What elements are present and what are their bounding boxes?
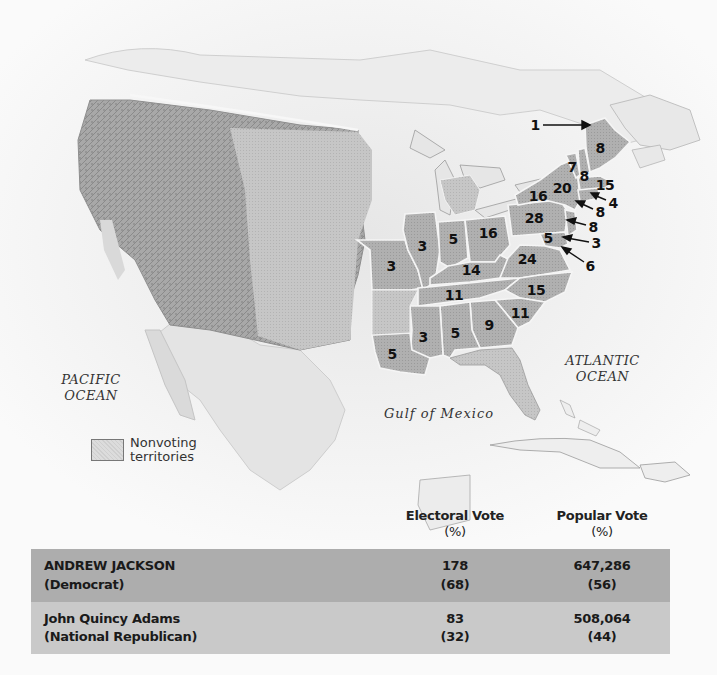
- gulf-of-mexico-label: Gulf of Mexico: [374, 406, 504, 422]
- electoral-vote-header: Electoral Vote (%): [385, 508, 525, 541]
- candidate-cell: ANDREW JACKSON (Democrat): [44, 557, 424, 593]
- table-row-adams: John Quincy Adams (National Republican) …: [31, 602, 670, 654]
- ev-label-new-hampshire: 8: [579, 169, 588, 183]
- ev-label-missouri: 3: [386, 259, 395, 273]
- ev-label-alabama: 5: [450, 326, 459, 340]
- pacific-ocean-label: PACIFIC OCEAN: [56, 372, 126, 405]
- ev-label-kentucky: 14: [462, 263, 480, 277]
- ev-label-georgia: 9: [484, 318, 493, 332]
- ev-label-north-carolina: 15: [527, 283, 545, 297]
- ev-label-maine: 8: [595, 141, 604, 155]
- electoral-vote-cell: 83 (32): [441, 610, 470, 646]
- election-map: 1 8 7 8 15 20 16 4 8 8 28 16 3 5 6 24 5 …: [0, 0, 717, 540]
- map-legend: Nonvoting territories: [91, 436, 197, 465]
- ev-label-new-jersey: 8: [588, 220, 597, 234]
- ev-label-mississippi: 3: [418, 330, 427, 344]
- ev-label-massachusetts: 15: [596, 178, 614, 192]
- nonvoting-territories-swatch: [91, 439, 124, 461]
- ev-label-virginia: 24: [518, 252, 536, 266]
- ev-label-maine-north: 1: [530, 118, 539, 132]
- ev-label-maryland-east: 6: [585, 259, 594, 273]
- ev-label-tennessee: 11: [445, 288, 463, 302]
- atlantic-ocean-label: ATLANTIC OCEAN: [560, 353, 645, 386]
- electoral-vote-cell: 178 (68): [441, 557, 470, 593]
- candidate-party: (Democrat): [44, 576, 424, 594]
- ev-label-connecticut: 8: [595, 205, 604, 219]
- popular-vote-cell: 647,286 (56): [573, 557, 630, 593]
- candidate-cell: John Quincy Adams (National Republican): [44, 610, 424, 646]
- ev-label-vermont: 7: [567, 160, 576, 174]
- ev-label-indiana: 5: [448, 232, 457, 246]
- ev-label-delaware: 3: [591, 236, 600, 250]
- candidate-name: John Quincy Adams: [44, 610, 424, 628]
- results-table: ANDREW JACKSON (Democrat) 178 (68) 647,2…: [31, 549, 670, 654]
- popular-vote-header: Popular Vote (%): [532, 508, 672, 541]
- ev-label-new-york: 20: [553, 181, 571, 195]
- candidate-name: ANDREW JACKSON: [44, 557, 424, 575]
- ev-label-maryland: 5: [543, 231, 552, 245]
- ev-label-south-carolina: 11: [511, 306, 529, 320]
- candidate-party: (National Republican): [44, 628, 424, 646]
- ev-label-rhode-island: 4: [608, 196, 617, 210]
- table-row-jackson: ANDREW JACKSON (Democrat) 178 (68) 647,2…: [31, 549, 670, 602]
- ev-label-illinois: 3: [417, 239, 426, 253]
- ev-label-pennsylvania: 28: [525, 211, 543, 225]
- ev-label-ohio: 16: [479, 226, 497, 240]
- legend-label: Nonvoting territories: [130, 436, 197, 465]
- ev-label-new-york-west: 16: [529, 189, 547, 203]
- popular-vote-cell: 508,064 (44): [573, 610, 630, 646]
- ev-label-louisiana: 5: [387, 347, 396, 361]
